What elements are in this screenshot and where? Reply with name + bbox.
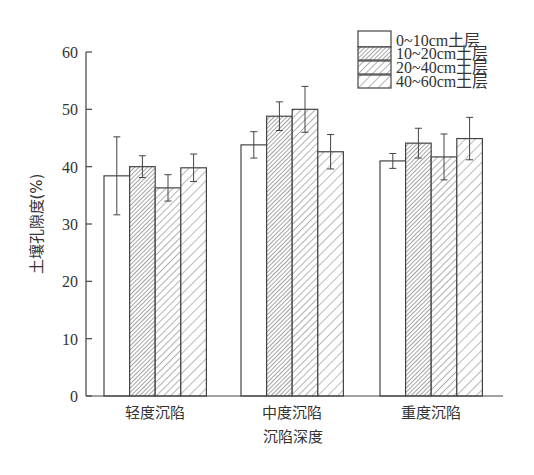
bar: [318, 152, 344, 396]
bar-group: [241, 86, 343, 396]
legend: 0~10cm土层10~20cm土层20~40cm土层40~60cm土层: [358, 31, 488, 90]
y-tick-label: 20: [62, 273, 78, 290]
y-axis: 0102030405060: [62, 44, 92, 405]
y-tick-label: 0: [70, 388, 78, 405]
bar: [241, 145, 267, 396]
bar-group: [104, 137, 206, 396]
x-axis-title: 沉陷深度: [263, 428, 323, 446]
bar: [292, 109, 318, 396]
bar: [380, 161, 406, 396]
x-category-label: 轻度沉陷: [125, 404, 185, 422]
y-tick-label: 50: [62, 101, 78, 118]
y-axis-title: 土壤孔隙度(%): [28, 174, 46, 275]
bars-group: [104, 86, 482, 396]
y-tick-label: 10: [62, 331, 78, 348]
bar: [130, 167, 156, 396]
legend-label: 40~60cm土层: [396, 73, 488, 90]
legend-swatch: [358, 75, 391, 88]
y-tick-label: 40: [62, 159, 78, 176]
bar: [431, 157, 457, 396]
y-tick-label: 30: [62, 216, 78, 233]
bar-group: [380, 117, 482, 396]
y-tick-label: 60: [62, 44, 78, 61]
legend-swatch: [358, 31, 391, 47]
bar: [267, 116, 293, 396]
bar: [406, 143, 432, 396]
bar-chart: 0102030405060 轻度沉陷中度沉陷重度沉陷 0~10cm土层10~20…: [0, 0, 534, 475]
bar: [181, 168, 207, 396]
x-category-label: 中度沉陷: [262, 404, 322, 422]
x-category-label: 重度沉陷: [401, 404, 461, 422]
legend-swatch: [358, 47, 391, 60]
legend-swatch: [358, 61, 391, 74]
legend-item: 40~60cm土层: [358, 73, 488, 90]
bar: [457, 139, 483, 396]
x-axis: 轻度沉陷中度沉陷重度沉陷: [86, 396, 503, 422]
bar: [155, 188, 181, 396]
